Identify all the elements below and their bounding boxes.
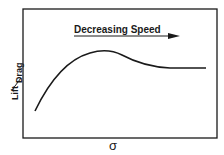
ylabel-lift: Lift — [10, 86, 20, 100]
speed-arrow-head-icon — [168, 33, 180, 39]
y-axis-label: Lift Drag — [10, 62, 24, 100]
annotation-label: Decreasing Speed — [74, 24, 161, 35]
lift-drag-diagram: Decreasing Speed Lift Drag σ — [0, 0, 224, 155]
x-axis-label: σ — [109, 138, 117, 153]
lift-drag-curve — [35, 51, 206, 111]
